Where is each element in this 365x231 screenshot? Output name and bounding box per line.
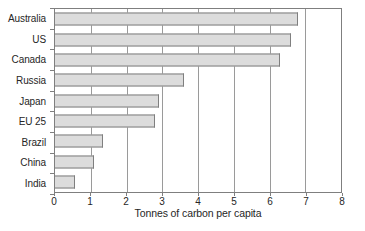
category-label-china: China (20, 157, 46, 168)
bar-japan (55, 94, 159, 107)
x-tick-label-0: 0 (51, 196, 57, 207)
bar-series (55, 9, 341, 192)
bar-brazil (55, 135, 103, 148)
y-axis-category-labels: AustraliaUSCanadaRussiaJapanEU 25BrazilC… (0, 8, 46, 193)
category-label-canada: Canada (12, 54, 46, 65)
x-tick-label-4: 4 (195, 196, 201, 207)
x-axis-title: Tonnes of carbon per capita (54, 207, 342, 219)
category-label-brazil: Brazil (22, 136, 46, 147)
bar-australia (55, 13, 298, 26)
bar-china (55, 155, 94, 168)
x-tick-label-2: 2 (123, 196, 129, 207)
category-label-india: India (25, 177, 46, 188)
category-label-australia: Australia (8, 13, 46, 24)
x-tick-label-8: 8 (339, 196, 345, 207)
bar-canada (55, 53, 280, 66)
bar-russia (55, 74, 184, 87)
x-tick-label-7: 7 (303, 196, 309, 207)
x-tick-label-1: 1 (87, 196, 93, 207)
plot-area (54, 8, 342, 193)
bar-eu-25 (55, 114, 155, 127)
bar-us (55, 33, 291, 46)
x-tick-label-6: 6 (267, 196, 273, 207)
category-label-eu-25: EU 25 (19, 116, 46, 127)
x-tick-label-5: 5 (231, 196, 237, 207)
category-label-russia: Russia (16, 74, 46, 85)
bar-india (55, 175, 75, 188)
category-label-japan: Japan (19, 95, 46, 106)
x-tick-label-3: 3 (159, 196, 165, 207)
category-label-us: US (32, 33, 46, 44)
carbon-per-capita-bar-chart: AustraliaUSCanadaRussiaJapanEU 25BrazilC… (0, 0, 365, 231)
